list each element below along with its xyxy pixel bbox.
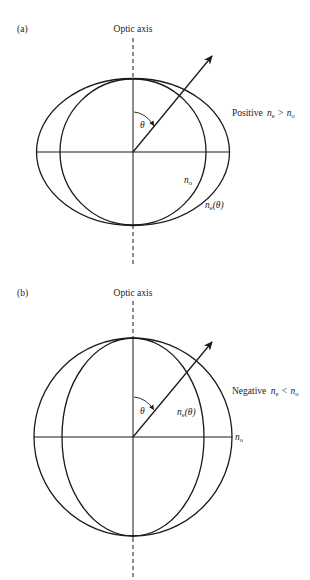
panel-a-optic-axis-label: Optic axis	[114, 24, 153, 34]
panel-b-optic-axis-label: Optic axis	[114, 288, 153, 298]
theta-label: θ	[140, 406, 145, 416]
negative-label: Negative ne < no	[232, 386, 298, 398]
wave-vector-arrow	[133, 342, 212, 437]
extraordinary-index-label: ne(θ)	[177, 407, 196, 418]
panel-b: (b) Optic axis θ Negative ne < no ne(θ) …	[17, 288, 298, 580]
positive-label: Positive ne > no	[232, 108, 295, 120]
panel-b-tag: (b)	[17, 288, 28, 299]
panel-a: (a) Optic axis θ Positive ne > no no ne(…	[17, 24, 295, 267]
theta-label: θ	[140, 120, 145, 130]
ordinary-index-label: no	[184, 175, 192, 186]
wave-vector-arrow	[133, 56, 212, 152]
birefringence-diagram: (a) Optic axis θ Positive ne > no no ne(…	[0, 0, 310, 580]
ordinary-index-label: no	[235, 432, 243, 443]
extraordinary-index-label: ne(θ)	[205, 200, 224, 211]
panel-a-tag: (a)	[17, 24, 28, 35]
